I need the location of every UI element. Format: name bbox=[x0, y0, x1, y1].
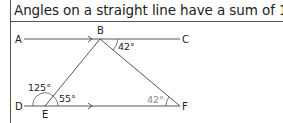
point-label-e: E bbox=[42, 109, 48, 120]
point-label-a: A bbox=[15, 34, 22, 45]
angle-label-cbf: 42° bbox=[118, 41, 135, 52]
geometry-diagram: A B C D E F 42° 125° 55° 42° bbox=[0, 0, 283, 123]
point-label-f: F bbox=[182, 101, 188, 112]
angle-label-bef: 55° bbox=[59, 93, 76, 104]
angle-arc-bfe bbox=[166, 97, 169, 106]
angle-label-deb: 125° bbox=[28, 82, 51, 93]
angle-arc-bef bbox=[53, 96, 58, 106]
line-bf bbox=[100, 39, 180, 106]
figure-frame: Angles on a straight line have a sum of … bbox=[0, 0, 283, 123]
point-label-b: B bbox=[97, 25, 104, 36]
point-label-c: C bbox=[182, 34, 189, 45]
point-label-d: D bbox=[15, 101, 23, 112]
angle-label-bfe: 42° bbox=[147, 94, 164, 105]
